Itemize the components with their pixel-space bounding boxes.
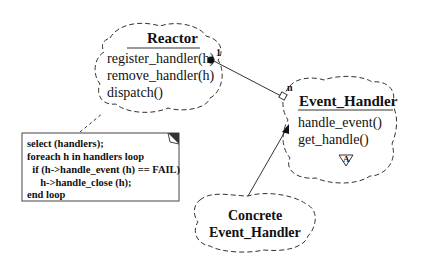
- reactor-method-dispatch: dispatch(): [107, 84, 163, 101]
- multiplicity-n-square: [279, 92, 287, 100]
- reactor-method-remove: remove_handler(h): [107, 67, 214, 84]
- event-handler-method-get-handle: get_handle(): [298, 131, 369, 148]
- association-line: [212, 60, 283, 97]
- abstract-badge-label: A: [343, 154, 350, 164]
- reactor-title: Reactor: [147, 30, 198, 47]
- event-handler-title: Event_Handler: [299, 93, 397, 110]
- event-handler-method-handle-event: handle_event(): [298, 114, 382, 131]
- reactor-method-register: register_handler(h): [107, 50, 214, 67]
- inheritance-line: [248, 128, 287, 196]
- note-connector: [80, 113, 103, 132]
- note-line-3: if (h->handle_event (h) == FAIL): [27, 163, 180, 177]
- note-line-1: select (handlers);: [27, 137, 104, 151]
- event-handler-multiplicity: n: [287, 82, 293, 93]
- note-line-5: end loop: [27, 188, 65, 202]
- note-line-2: foreach h in handlers loop: [27, 150, 144, 164]
- concrete-title-line2: Event_Handler: [209, 225, 301, 241]
- reactor-multiplicity: 1: [216, 47, 221, 58]
- concrete-title-line1: Concrete: [228, 208, 282, 224]
